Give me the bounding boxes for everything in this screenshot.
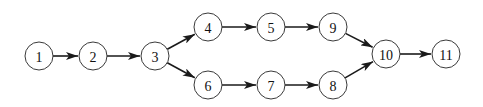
node-label: 7 bbox=[268, 79, 275, 94]
node-label: 2 bbox=[90, 50, 97, 65]
node-label: 1 bbox=[36, 50, 43, 65]
node-label: 4 bbox=[205, 21, 212, 36]
node-10: 10 bbox=[372, 40, 400, 68]
node-2: 2 bbox=[79, 42, 107, 70]
node-label: 3 bbox=[152, 50, 159, 65]
node-label: 9 bbox=[330, 21, 337, 36]
edge-8-to-10 bbox=[345, 62, 373, 78]
edge-3-to-4 bbox=[167, 34, 195, 49]
nodes-layer: 1234596781011 bbox=[25, 13, 460, 99]
edge-9-to-10 bbox=[345, 33, 372, 47]
node-8: 8 bbox=[319, 71, 347, 99]
node-7: 7 bbox=[257, 71, 285, 99]
flow-diagram: 1234596781011 bbox=[0, 0, 483, 107]
node-11: 11 bbox=[432, 40, 460, 68]
node-label: 11 bbox=[439, 48, 452, 63]
node-label: 10 bbox=[379, 48, 393, 63]
node-4: 4 bbox=[194, 13, 222, 41]
node-3: 3 bbox=[141, 42, 169, 70]
node-label: 8 bbox=[330, 79, 337, 94]
node-6: 6 bbox=[194, 71, 222, 99]
edge-3-to-6 bbox=[167, 63, 195, 78]
node-9: 9 bbox=[319, 13, 347, 41]
node-label: 6 bbox=[205, 79, 212, 94]
node-1: 1 bbox=[25, 42, 53, 70]
node-label: 5 bbox=[268, 21, 275, 36]
node-5: 5 bbox=[257, 13, 285, 41]
